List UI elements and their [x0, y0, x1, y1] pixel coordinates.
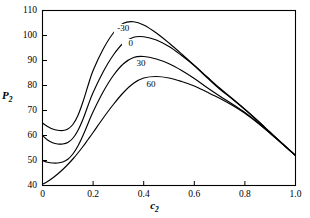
x-tick-1.0: 1.0	[281, 189, 310, 199]
x-tick-0.2: 0.2	[78, 189, 108, 199]
y-tick-110: 110	[11, 5, 37, 15]
x-tick-0: 0	[28, 189, 58, 199]
data-curves	[43, 22, 296, 185]
chart-plot-area	[0, 0, 309, 218]
axis-ticks	[43, 11, 296, 186]
curve--30	[43, 22, 296, 156]
y-tick-50: 50	[11, 155, 37, 165]
curve-label-0: 0	[122, 39, 140, 48]
curve-0	[43, 36, 296, 155]
x-tick-0.8: 0.8	[230, 189, 260, 199]
curve-60	[43, 77, 296, 185]
y-tick-100: 100	[11, 30, 37, 40]
y-tick-60: 60	[11, 130, 37, 140]
curve-label-30: 30	[132, 59, 150, 68]
y-axis-label: P2	[2, 89, 12, 104]
curve-label--30: -30	[114, 24, 132, 33]
x-tick-0.6: 0.6	[179, 189, 209, 199]
y-tick-80: 80	[11, 80, 37, 90]
x-axis-label: c2	[0, 199, 309, 214]
x-tick-0.4: 0.4	[129, 189, 159, 199]
y-tick-70: 70	[11, 105, 37, 115]
plot-frame	[43, 11, 296, 186]
curve-label-60: 60	[142, 80, 160, 89]
y-tick-90: 90	[11, 55, 37, 65]
chart-figure: P2 c2 405060708090100110 00.20.40.60.81.…	[0, 0, 309, 218]
